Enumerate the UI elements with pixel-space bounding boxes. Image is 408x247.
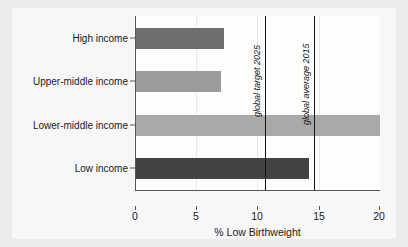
ytick-label-upper-middle-income: Upper-middle income [33, 76, 128, 87]
refline-global-average-2015 [314, 16, 315, 190]
chart-figure: High income Upper-middle income Lower-mi… [0, 0, 408, 247]
ytick-label-low-income: Low income [75, 163, 128, 174]
x-axis-title: % Low Birthweight [135, 226, 380, 238]
refline-label-global-target-2025: global target 2025 [252, 45, 262, 117]
xtick-label-10: 10 [251, 210, 263, 222]
plot-area: High income Upper-middle income Lower-mi… [135, 16, 380, 190]
x-axis-spine [135, 190, 380, 191]
bar-upper-middle-income[interactable] [135, 71, 221, 92]
refline-label-global-average-2015: global average 2015 [301, 43, 311, 125]
ytick-label-lower-middle-income: Lower-middle income [33, 120, 128, 131]
gridline-15 [319, 16, 320, 190]
xtick-label-0: 0 [132, 210, 138, 222]
refline-global-target-2025 [265, 16, 266, 190]
ytick-label-high-income: High income [72, 33, 128, 44]
xtick-label-5: 5 [193, 210, 199, 222]
bar-low-income[interactable] [135, 158, 309, 179]
xtick-label-20: 20 [373, 210, 385, 222]
xtick-label-15: 15 [313, 210, 325, 222]
bar-high-income[interactable] [135, 28, 224, 49]
y-axis-spine [135, 16, 136, 190]
bar-lower-middle-income[interactable] [135, 115, 380, 136]
